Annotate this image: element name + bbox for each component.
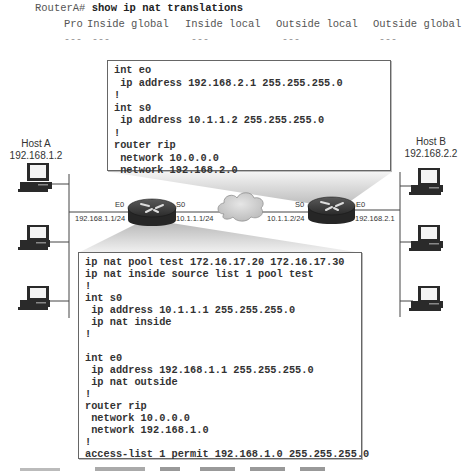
host-left-3-computer-icon [18, 286, 50, 310]
host-right-3-computer-icon [409, 286, 443, 311]
config-line: ip nat inside [85, 316, 361, 328]
config-line: router rip [114, 139, 390, 152]
config-line: router rip [85, 400, 361, 412]
host-a-ip: 192.168.1.2 [4, 150, 68, 162]
router-a-s0-label: S0 [176, 200, 185, 209]
config-line: ! [85, 436, 361, 448]
config-line: ! [114, 127, 390, 140]
host-a-label: Host A 192.168.1.2 [4, 138, 68, 162]
host-left-2-computer-icon [18, 225, 50, 250]
router-a-config-box: ip nat pool test 172.16.17.20 172.16.17.… [78, 252, 362, 459]
config-line: ! [85, 388, 361, 400]
router-b-icon [308, 197, 355, 224]
config-line: network 10.0.0.0 [85, 412, 361, 424]
host-a-name: Host A [4, 138, 68, 150]
config-line: network 192.168.1.0 [85, 424, 361, 436]
host-right-2-computer-icon [409, 225, 443, 251]
config-line: ip address 192.168.1.1 255.255.255.0 [85, 364, 361, 376]
host-a-computer-icon [18, 163, 52, 192]
router-b-s0-ip: 10.1.1.2/24 [267, 214, 305, 223]
config-line: ! [114, 89, 390, 102]
host-b-ip: 192.168.2.2 [398, 148, 464, 160]
config-line: int e0 [85, 352, 361, 364]
host-b-name: Host B [398, 136, 464, 148]
host-b-computer-icon [409, 168, 443, 195]
host-b-label: Host B 192.168.2.2 [398, 136, 464, 160]
config-line: ip address 10.1.1.2 255.255.255.0 [114, 114, 390, 127]
config-line: ip nat pool test 172.16.17.20 172.16.17.… [85, 256, 361, 268]
router-b-s0-label: S0 [295, 200, 304, 209]
config-line: ! [85, 328, 361, 340]
cropped-caption-fragment [0, 462, 469, 472]
config-line: network 192.168.2.0 [114, 164, 390, 177]
router-a-icon [128, 199, 176, 226]
config-line: int eo [114, 64, 390, 77]
config-line: access-list 1 permit 192.168.1.0 255.255… [85, 448, 361, 460]
router-b-config-box: int eo ip address 192.168.2.1 255.255.25… [107, 60, 391, 171]
config-line: int s0 [85, 292, 361, 304]
router-b-e0-label: E0 [356, 200, 365, 209]
config-line: ip address 10.1.1.1 255.255.255.0 [85, 304, 361, 316]
config-line: ip address 192.168.2.1 255.255.255.0 [114, 77, 390, 90]
router-a-config-beam [78, 222, 362, 253]
router-a-e0-ip: 192.168.1.1/24 [75, 214, 125, 223]
config-line: int s0 [114, 102, 390, 115]
router-a-e0-label: E0 [115, 200, 124, 209]
router-a-s0-ip: 10.1.1.1/24 [176, 214, 214, 223]
config-line: ! [85, 280, 361, 292]
config-line: ip nat inside source list 1 pool test [85, 268, 361, 280]
wan-cloud-icon [218, 193, 263, 221]
config-line: ip nat outside [85, 376, 361, 388]
router-b-e0-ip: 192.168.2.1 [355, 214, 395, 223]
config-line [85, 340, 361, 352]
config-line: network 10.0.0.0 [114, 152, 390, 165]
